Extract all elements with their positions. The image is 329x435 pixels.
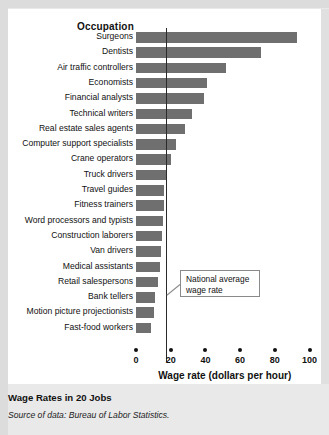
- figure-source-note: Source of data: Bureau of Labor Statisti…: [8, 410, 169, 420]
- bar-row-label: Word processors and typists: [25, 215, 133, 225]
- figure-title: Wage Rates in 20 Jobs: [8, 392, 112, 403]
- bar-row-label: Air traffic controllers: [57, 62, 133, 72]
- axis-tick-dot: [203, 348, 207, 352]
- bar: [136, 200, 164, 211]
- bar: [136, 124, 185, 135]
- bar-row: Computer support specialists: [8, 137, 321, 152]
- bar-row: Fast-food workers: [8, 321, 321, 336]
- bar-row: Word processors and typists: [8, 214, 321, 229]
- bar-row: Air traffic controllers: [8, 61, 321, 76]
- bar-row: Surgeons: [8, 30, 321, 45]
- axis-tick-dot: [238, 348, 242, 352]
- bar-row: Real estate sales agents: [8, 122, 321, 137]
- bar-row-label: Crane operators: [71, 153, 133, 163]
- chart-panel: Occupation SurgeonsDentistsAir traffic c…: [8, 9, 321, 384]
- bar-row: Medical assistants: [8, 260, 321, 275]
- bar-chart-plot: SurgeonsDentistsAir traffic controllersE…: [8, 9, 321, 384]
- axis-tick-dot: [273, 348, 277, 352]
- bar-row-label: Travel guides: [82, 184, 133, 194]
- bar: [136, 139, 176, 150]
- bar-row: Economists: [8, 76, 321, 91]
- bar-row-label: Bank tellers: [88, 291, 133, 301]
- bar: [136, 307, 154, 318]
- bar: [136, 32, 297, 43]
- bar-row: Van drivers: [8, 244, 321, 259]
- bar-row-label: Computer support specialists: [22, 138, 133, 148]
- axis-tick-label: 60: [225, 355, 255, 365]
- bar: [136, 170, 167, 181]
- callout-national-average: National average wage rate: [180, 270, 260, 297]
- bar-row-label: Medical assistants: [63, 261, 133, 271]
- bar-row: Crane operators: [8, 152, 321, 167]
- bar: [136, 231, 162, 242]
- axis-tick-label: 0: [121, 355, 151, 365]
- bar-row-label: Real estate sales agents: [39, 123, 133, 133]
- bar-row-label: Fitness trainers: [74, 199, 133, 209]
- bar-row: Technical writers: [8, 107, 321, 122]
- bar: [136, 47, 261, 58]
- bar-row-label: Van drivers: [90, 245, 133, 255]
- bar: [136, 63, 226, 74]
- bar-row: Truck drivers: [8, 168, 321, 183]
- axis-tick-dot: [169, 348, 173, 352]
- bar: [136, 246, 161, 257]
- bar: [136, 262, 160, 273]
- bar: [136, 323, 151, 334]
- national-average-reference-line: [166, 28, 168, 362]
- bar-row: Fitness trainers: [8, 198, 321, 213]
- page-left-edge: [0, 0, 8, 435]
- bar: [136, 216, 163, 227]
- bar-row-label: Financial analysts: [65, 92, 133, 102]
- axis-tick-label: 20: [156, 355, 186, 365]
- x-axis-title: Wage rate (dollars per hour): [126, 370, 324, 381]
- axis-tick-label: 40: [190, 355, 220, 365]
- bar-row: Travel guides: [8, 183, 321, 198]
- bar: [136, 277, 158, 288]
- bar-row-label: Fast-food workers: [64, 322, 133, 332]
- bar: [136, 185, 164, 196]
- axis-tick-label: 80: [260, 355, 290, 365]
- bar-row: Dentists: [8, 45, 321, 60]
- bar-row-label: Dentists: [102, 46, 133, 56]
- bar: [136, 78, 207, 89]
- bar-row: Retail salespersons: [8, 275, 321, 290]
- bar-row: Construction laborers: [8, 229, 321, 244]
- bar-row: Motion picture projectionists: [8, 305, 321, 320]
- axis-tick-dot: [308, 348, 312, 352]
- bar-row-label: Economists: [89, 77, 133, 87]
- bar-row-label: Truck drivers: [84, 169, 133, 179]
- bar-row-label: Construction laborers: [51, 230, 133, 240]
- axis-tick-label: 100: [295, 355, 325, 365]
- axis-tick-dot: [134, 348, 138, 352]
- page-top-edge: [0, 0, 329, 8]
- bar-row-label: Motion picture projectionists: [26, 306, 133, 316]
- bar: [136, 109, 192, 120]
- bar-row: Bank tellers: [8, 290, 321, 305]
- bar: [136, 292, 155, 303]
- figure-page: Occupation SurgeonsDentistsAir traffic c…: [0, 0, 329, 435]
- bar: [136, 93, 204, 104]
- bar-row: Financial analysts: [8, 91, 321, 106]
- bar-row-label: Technical writers: [69, 108, 133, 118]
- bar-row-label: Retail salespersons: [58, 276, 133, 286]
- bar-row-label: Surgeons: [96, 31, 133, 41]
- panel-shadow: [321, 9, 329, 384]
